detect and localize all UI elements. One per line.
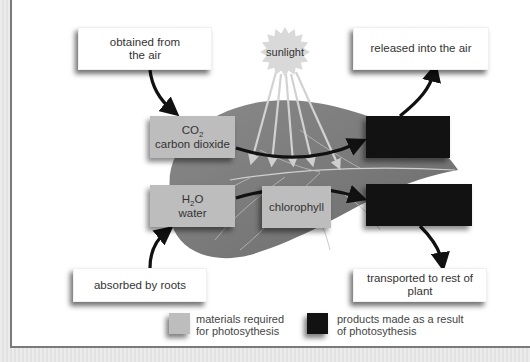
co2-formula: CO2 bbox=[182, 124, 204, 138]
material-chlorophyll-box: chlorophyll bbox=[262, 186, 331, 228]
legend-materials-line1: materials required bbox=[196, 313, 284, 325]
chlorophyll-name: chlorophyll bbox=[269, 201, 324, 214]
co2-formula-sub: 2 bbox=[199, 130, 203, 139]
material-co2-box: CO2 carbon dioxide bbox=[150, 116, 235, 158]
h2o-name: water bbox=[178, 207, 206, 220]
legend-materials: materials required for photosythesis bbox=[196, 313, 284, 337]
h2o-formula-post: O bbox=[194, 193, 203, 205]
material-h2o-box: H2O water bbox=[150, 185, 235, 227]
callout-released-into-air: released into the air bbox=[353, 27, 489, 70]
arrow-air-to-co2 bbox=[150, 70, 172, 110]
product-box-2 bbox=[366, 184, 472, 226]
arrow-product-to-air bbox=[400, 72, 434, 116]
h2o-formula-pre: H bbox=[182, 193, 190, 205]
callout-absorbed-by-roots: absorbed by roots bbox=[73, 268, 207, 302]
callout-obtained-line2: the air bbox=[129, 49, 161, 62]
h2o-formula: H2O bbox=[182, 193, 204, 207]
legend-products-line1: products made as a result bbox=[337, 313, 464, 325]
sunlight-label: sunlight bbox=[255, 46, 315, 58]
legend-products-line2: of photosythesis bbox=[337, 325, 464, 337]
co2-name: carbon dioxide bbox=[155, 138, 230, 151]
h2o-formula-sub: 2 bbox=[190, 199, 194, 208]
arrow-roots-to-h2o bbox=[150, 232, 166, 268]
callout-obtained-from-air: obtained from the air bbox=[78, 27, 212, 70]
legend-swatch-materials bbox=[169, 313, 190, 334]
legend-swatch-products bbox=[307, 313, 328, 334]
legend-materials-line2: for photosythesis bbox=[196, 325, 284, 337]
callout-obtained-line1: obtained from bbox=[110, 36, 180, 49]
arrow-product-to-plant bbox=[420, 226, 442, 262]
product-box-1 bbox=[366, 116, 450, 158]
callout-transported-to-plant: transported to rest of plant bbox=[353, 268, 487, 302]
co2-formula-main: CO bbox=[182, 124, 199, 136]
legend-products: products made as a result of photosythes… bbox=[337, 313, 464, 337]
